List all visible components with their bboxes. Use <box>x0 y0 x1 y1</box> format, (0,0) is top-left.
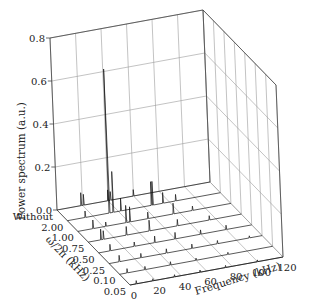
spectrum-trace-2.00 <box>67 69 220 221</box>
z-tick-label: 0.4 <box>33 119 49 130</box>
z-tick-label: 0.2 <box>34 162 50 173</box>
spectrum-trace-0.25 <box>109 236 262 264</box>
y-tick-label: 0.10 <box>93 275 115 286</box>
z-tick-label: 0.6 <box>31 76 47 87</box>
spectrum-trace-1.00 <box>78 203 231 231</box>
spectrum-trace-0.75 <box>88 214 241 242</box>
z-axis-label: Power spectrum (a.u.) <box>15 102 27 220</box>
waterfall-chart: 0.00.20.40.60.8 Without2.001.000.750.500… <box>0 0 323 307</box>
z-axis-ticks: 0.00.20.40.60.8 <box>29 33 57 216</box>
back-wall-grid <box>50 10 283 257</box>
x-tick-label: 20 <box>153 285 166 296</box>
x-tick-label: 40 <box>179 281 192 292</box>
y-tick-label: 0.05 <box>104 286 126 297</box>
z-tick-label: 0.8 <box>29 33 45 44</box>
spectrum-traces <box>57 69 283 285</box>
y-tick-label: 2.00 <box>41 222 63 233</box>
x-tick-label: 0 <box>131 290 137 301</box>
